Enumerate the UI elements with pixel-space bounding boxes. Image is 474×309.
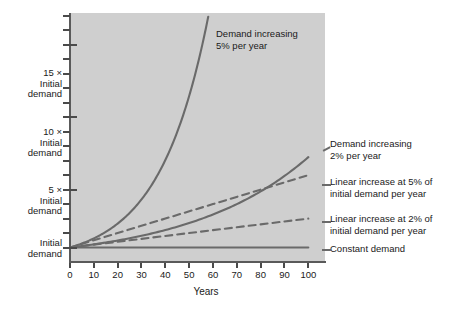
- x-axis-line: [69, 261, 326, 263]
- x-tick-90: [283, 263, 285, 268]
- x-tick-20: [117, 263, 119, 268]
- annotation-lin2-line2: initial demand per year: [330, 225, 432, 237]
- y-tick-minor-2: [63, 232, 70, 234]
- x-tick-label-50: 50: [177, 269, 201, 280]
- y-tick-minor-7: [63, 160, 70, 162]
- x-tick-10: [93, 263, 95, 268]
- x-tick-label-40: 40: [153, 269, 177, 280]
- leader-line-lin2: [322, 221, 331, 223]
- y-label-15x-line3: demand: [4, 89, 62, 100]
- x-tick-label-70: 70: [225, 269, 249, 280]
- y-label-10x-line3: demand: [4, 148, 62, 159]
- x-tick-label-0: 0: [58, 269, 82, 280]
- y-tick-minor-4: [63, 203, 70, 205]
- x-tick-label-90: 90: [272, 269, 296, 280]
- y-label-5x-line3: demand: [4, 206, 62, 217]
- y-tick-minor-9: [63, 131, 70, 133]
- y-tick-minor-14: [63, 58, 70, 60]
- annotation-exp5-line2: 5% per year: [216, 40, 298, 52]
- y-tick-minor-11: [63, 102, 70, 104]
- y-label-initial-line1: Initial: [4, 238, 62, 249]
- x-tick-label-30: 30: [129, 269, 153, 280]
- y-tick-minor-3: [63, 218, 70, 220]
- y-label-initial-line2: demand: [4, 249, 62, 260]
- x-tick-label-10: 10: [82, 269, 106, 280]
- leader-line-lin5: [322, 184, 331, 186]
- x-tick-label-100: 100: [296, 269, 320, 280]
- y-tick-minor-12: [63, 87, 70, 89]
- annotation-constant: Constant demand: [330, 243, 405, 255]
- x-tick-100: [307, 263, 309, 268]
- y-label-5x: 5 × Initial demand: [4, 185, 62, 217]
- annotation-lin2: Linear increase at 2% of initial demand …: [330, 213, 432, 236]
- y-label-initial: Initial demand: [4, 238, 62, 259]
- leader-line-constant: [322, 249, 331, 251]
- x-tick-70: [236, 263, 238, 268]
- annotation-lin5-line1: Linear increase at 5% of: [330, 176, 432, 188]
- y-tick-minor-17: [63, 15, 70, 17]
- y-tick-minor-6: [63, 174, 70, 176]
- annotation-exp2-line2: 2% per year: [330, 150, 412, 162]
- x-tick-label-60: 60: [201, 269, 225, 280]
- annotation-exp2: Demand increasing 2% per year: [330, 138, 412, 161]
- series-curve-2: [70, 175, 308, 247]
- x-tick-80: [260, 263, 262, 268]
- x-tick-30: [140, 263, 142, 268]
- y-label-5x-line1: 5 ×: [4, 185, 62, 196]
- annotation-constant-line1: Constant demand: [330, 243, 405, 255]
- y-label-15x-line1: 15 ×: [4, 68, 62, 79]
- y-tick-major-5: [63, 189, 77, 191]
- x-tick-label-20: 20: [106, 269, 130, 280]
- y-tick-major-15: [63, 44, 77, 46]
- annotation-lin2-line1: Linear increase at 2% of: [330, 213, 432, 225]
- x-tick-0: [69, 263, 71, 268]
- x-axis-title: Years: [161, 286, 251, 297]
- annotation-exp2-line1: Demand increasing: [330, 138, 412, 150]
- x-tick-40: [164, 263, 166, 268]
- annotation-lin5-line2: initial demand per year: [330, 188, 432, 200]
- annotation-lin5: Linear increase at 5% of initial demand …: [330, 176, 432, 199]
- x-tick-60: [212, 263, 214, 268]
- y-tick-minor-13: [63, 73, 70, 75]
- x-tick-label-80: 80: [249, 269, 273, 280]
- y-tick-major-1: [63, 247, 77, 249]
- y-axis-line: [69, 13, 71, 263]
- annotation-exp5: Demand increasing 5% per year: [216, 28, 298, 51]
- annotation-exp5-line1: Demand increasing: [216, 28, 298, 40]
- y-label-10x: 10 × Initial demand: [4, 127, 62, 159]
- chart-figure: 15 × Initial demand 10 × Initial demand …: [0, 0, 474, 309]
- y-label-15x: 15 × Initial demand: [4, 68, 62, 100]
- y-tick-minor-16: [63, 29, 70, 31]
- x-tick-50: [188, 263, 190, 268]
- y-label-10x-line1: 10 ×: [4, 127, 62, 138]
- y-tick-major-10: [63, 116, 77, 118]
- y-tick-minor-8: [63, 145, 70, 147]
